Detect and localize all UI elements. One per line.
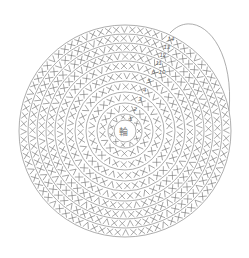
single-crochet-x-icon — [131, 45, 138, 52]
single-crochet-x-icon — [90, 114, 98, 122]
increase-v-icon — [136, 64, 143, 71]
single-crochet-x-icon — [41, 81, 49, 89]
single-crochet-x-icon — [70, 60, 78, 68]
single-crochet-x-icon — [164, 114, 171, 121]
single-crochet-x-icon — [78, 121, 85, 128]
single-crochet-x-icon — [98, 56, 106, 64]
single-crochet-x-icon — [107, 45, 114, 52]
single-crochet-x-icon — [169, 100, 177, 108]
single-crochet-x-icon — [90, 59, 98, 67]
single-crochet-x-icon — [95, 216, 102, 223]
round-label: 6~10 — [152, 69, 166, 75]
increase-v-icon — [182, 84, 190, 92]
increase-v-icon — [66, 201, 74, 209]
single-crochet-x-icon — [145, 57, 153, 65]
single-crochet-x-icon — [152, 140, 160, 148]
single-crochet-x-icon — [142, 217, 149, 224]
round-label: 1 — [129, 116, 132, 122]
center-label: 輪 — [119, 125, 128, 138]
increase-v-icon — [205, 133, 211, 139]
increase-v-icon — [135, 144, 143, 152]
single-crochet-x-icon — [121, 35, 127, 41]
single-crochet-x-icon — [44, 160, 52, 168]
single-crochet-x-icon — [175, 115, 182, 122]
single-crochet-x-icon — [106, 144, 114, 152]
single-crochet-x-icon — [146, 48, 154, 56]
increase-v-icon — [169, 84, 177, 92]
single-crochet-x-icon — [130, 84, 137, 91]
single-crochet-x-icon — [86, 98, 94, 106]
single-crochet-x-icon — [83, 151, 91, 159]
single-crochet-x-icon — [81, 43, 89, 51]
single-crochet-x-icon — [107, 97, 115, 105]
single-crochet-x-icon — [124, 44, 130, 50]
increase-v-icon — [192, 170, 200, 178]
single-crochet-x-icon — [80, 164, 88, 172]
single-crochet-x-icon — [82, 74, 90, 82]
single-crochet-x-icon — [65, 160, 73, 168]
increase-v-icon — [82, 34, 90, 42]
single-crochet-x-icon — [102, 115, 110, 123]
single-crochet-x-icon — [208, 179, 216, 187]
single-crochet-x-icon — [135, 157, 143, 165]
increase-v-icon — [57, 131, 63, 137]
increase-v-icon — [40, 172, 48, 180]
increase-v-icon — [159, 87, 167, 95]
single-crochet-x-icon — [203, 109, 210, 116]
single-crochet-x-icon — [173, 147, 181, 155]
single-crochet-x-icon — [104, 209, 111, 216]
single-crochet-x-icon — [113, 27, 119, 33]
single-crochet-x-icon — [218, 158, 226, 166]
single-crochet-x-icon — [44, 179, 52, 187]
single-crochet-x-icon — [83, 63, 91, 71]
single-crochet-x-icon — [182, 105, 190, 113]
single-crochet-x-icon — [136, 210, 143, 217]
increase-v-icon — [186, 121, 193, 128]
increase-v-icon — [94, 196, 102, 204]
single-crochet-x-icon — [39, 187, 47, 195]
single-crochet-x-icon — [157, 212, 165, 220]
single-crochet-x-icon — [121, 143, 126, 148]
single-crochet-x-icon — [38, 130, 44, 136]
single-crochet-x-icon — [156, 100, 164, 108]
increase-v-icon — [128, 36, 134, 42]
single-crochet-x-icon — [187, 129, 193, 135]
single-crochet-x-icon — [128, 211, 134, 217]
single-crochet-x-icon — [69, 112, 76, 119]
single-crochet-x-icon — [196, 130, 202, 136]
increase-v-icon — [146, 176, 154, 184]
single-crochet-x-icon — [222, 111, 229, 118]
single-crochet-x-icon — [30, 81, 38, 89]
single-crochet-x-icon — [73, 206, 81, 214]
single-crochet-x-icon — [86, 193, 94, 201]
single-crochet-x-icon — [75, 97, 83, 105]
increase-v-icon — [194, 183, 202, 191]
single-crochet-x-icon — [141, 199, 148, 206]
single-crochet-x-icon — [137, 55, 144, 62]
single-crochet-x-icon — [121, 161, 127, 167]
single-crochet-x-icon — [71, 151, 79, 159]
single-crochet-x-icon — [62, 153, 70, 161]
single-crochet-x-icon — [153, 117, 161, 125]
round-label: 14 — [167, 36, 174, 42]
single-crochet-x-icon — [48, 122, 54, 128]
single-crochet-x-icon — [49, 145, 56, 152]
single-crochet-x-icon — [206, 163, 214, 171]
single-crochet-x-icon — [172, 107, 180, 115]
increase-v-icon — [196, 122, 202, 128]
single-crochet-x-icon — [34, 158, 42, 166]
increase-v-icon — [165, 198, 173, 206]
single-crochet-x-icon — [101, 167, 109, 175]
single-crochet-x-icon — [23, 104, 30, 111]
increase-v-icon — [144, 124, 151, 131]
single-crochet-x-icon — [119, 193, 125, 199]
single-crochet-x-icon — [75, 173, 83, 181]
increase-v-icon — [34, 95, 42, 103]
single-crochet-x-icon — [201, 101, 209, 109]
single-crochet-x-icon — [57, 123, 63, 129]
single-crochet-x-icon — [200, 78, 208, 86]
increase-v-icon — [127, 220, 133, 226]
single-crochet-x-icon — [99, 131, 106, 138]
single-crochet-x-icon — [175, 139, 182, 146]
single-crochet-x-icon — [152, 158, 160, 166]
